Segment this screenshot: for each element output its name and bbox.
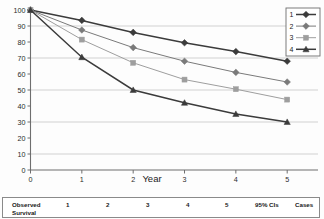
table-col-2: 2 bbox=[106, 201, 109, 208]
y-tick-label: 0 bbox=[22, 166, 26, 175]
chart-page: 0102030405060708090100 012345 Year 1234 … bbox=[0, 0, 324, 219]
data-point-marker bbox=[79, 17, 86, 24]
x-tick-label: 3 bbox=[183, 175, 187, 184]
y-tick-label: 10 bbox=[18, 150, 26, 159]
survival-chart: 0102030405060708090100 012345 Year 1234 bbox=[0, 0, 324, 186]
data-point-marker bbox=[79, 27, 86, 34]
data-point-marker bbox=[233, 87, 238, 92]
table-col-5: 5 bbox=[225, 201, 228, 208]
data-point-marker bbox=[181, 40, 188, 47]
chart-legend: 1234 bbox=[286, 8, 320, 56]
legend-label-4: 4 bbox=[290, 46, 294, 53]
y-tick-label: 20 bbox=[18, 134, 26, 143]
data-point-marker bbox=[284, 79, 291, 86]
gridlines bbox=[31, 26, 319, 154]
table-col-ci: 95% CIs bbox=[255, 201, 279, 208]
data-point-marker bbox=[130, 29, 137, 36]
x-axis-title: Year bbox=[142, 173, 161, 184]
x-tick-label: 1 bbox=[80, 175, 84, 184]
series-line bbox=[31, 10, 288, 122]
table-row: Observed Survival 1 2 3 4 5 95% CIs Case… bbox=[3, 198, 319, 217]
table-col-cases: Cases bbox=[295, 201, 313, 208]
observed-survival-table: Observed Survival 1 2 3 4 5 95% CIs Case… bbox=[2, 197, 320, 218]
data-point-marker bbox=[285, 97, 290, 102]
series-line bbox=[31, 10, 288, 61]
y-tick-label: 60 bbox=[18, 70, 26, 79]
y-tick-label: 50 bbox=[18, 86, 26, 95]
x-tick-label: 0 bbox=[29, 175, 33, 184]
table-row-header-line2: Survival bbox=[12, 209, 36, 216]
data-point-marker bbox=[233, 48, 240, 55]
x-tick-label: 4 bbox=[234, 175, 238, 184]
table-row-header-line1: Observed bbox=[12, 201, 41, 208]
data-point-marker bbox=[79, 37, 84, 42]
x-tick-label: 5 bbox=[285, 175, 289, 184]
y-tick-label: 90 bbox=[18, 22, 26, 31]
series-1 bbox=[27, 7, 290, 65]
y-tick-label: 40 bbox=[18, 102, 26, 111]
legend-label-3: 3 bbox=[290, 34, 294, 41]
data-point-marker bbox=[233, 69, 240, 76]
x-axis: 012345 bbox=[29, 170, 319, 184]
y-tick-label: 100 bbox=[14, 6, 26, 15]
table-col-1: 1 bbox=[66, 201, 69, 208]
y-tick-label: 70 bbox=[18, 54, 26, 63]
legend-label-2: 2 bbox=[290, 23, 294, 30]
data-point-marker bbox=[182, 77, 187, 82]
table-col-3: 3 bbox=[146, 201, 149, 208]
data-point-marker bbox=[131, 60, 136, 65]
series-lines bbox=[27, 7, 290, 125]
y-axis: 0102030405060708090100 bbox=[14, 6, 31, 175]
data-point-marker bbox=[181, 58, 188, 65]
data-point-marker bbox=[304, 35, 309, 40]
legend-label-1: 1 bbox=[290, 11, 294, 18]
series-2 bbox=[27, 7, 290, 86]
y-tick-label: 80 bbox=[18, 38, 26, 47]
table-col-4: 4 bbox=[186, 201, 189, 208]
table-row-header: Observed Survival bbox=[12, 201, 41, 216]
data-point-marker bbox=[130, 44, 137, 51]
y-tick-label: 30 bbox=[18, 118, 26, 127]
x-tick-label: 2 bbox=[131, 175, 135, 184]
data-point-marker bbox=[284, 58, 291, 65]
chart-canvas: 0102030405060708090100 012345 Year 1234 bbox=[0, 0, 324, 186]
